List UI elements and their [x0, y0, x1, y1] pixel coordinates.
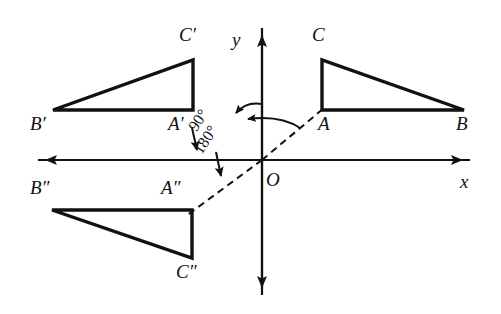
- axes-group: [38, 28, 470, 295]
- vertex-label-a-prime: A′: [168, 114, 184, 133]
- ray-o-to-a: [262, 108, 324, 160]
- x-axis-label: x: [460, 172, 468, 191]
- vertex-label-a: A: [318, 114, 330, 133]
- vertex-label-c: C: [312, 25, 325, 44]
- arrow-180-to-a-dprime-icon: [216, 152, 221, 176]
- triangle-abc-prime: [53, 60, 193, 110]
- triangle-abc-prime-shape: [53, 60, 193, 110]
- geometry-canvas: [0, 0, 501, 314]
- triangle-abc-dprime: [52, 210, 192, 258]
- arc-90-icon: [236, 103, 262, 113]
- vertex-label-b-dprime: B″: [30, 178, 50, 197]
- vertex-label-b: B: [456, 114, 468, 133]
- ray-o-to-a-dprime: [186, 160, 262, 216]
- vertex-label-c-dprime: C″: [176, 262, 197, 281]
- triangle-abc: [322, 60, 464, 110]
- origin-label: O: [266, 170, 280, 189]
- rotation-diagram: A B C A′ B′ C′ A″ B″ C″ y x O 90° 180°: [0, 0, 501, 314]
- triangle-abc-shape: [322, 60, 464, 110]
- angle-arcs-group: [236, 103, 300, 128]
- triangle-abc-dprime-shape: [52, 210, 192, 258]
- vertex-label-b-prime: B′: [30, 114, 46, 133]
- y-axis-label: y: [232, 30, 240, 49]
- vertex-label-a-dprime: A″: [161, 178, 181, 197]
- arc-180-icon: [248, 118, 300, 128]
- vertex-label-c-prime: C′: [179, 25, 196, 44]
